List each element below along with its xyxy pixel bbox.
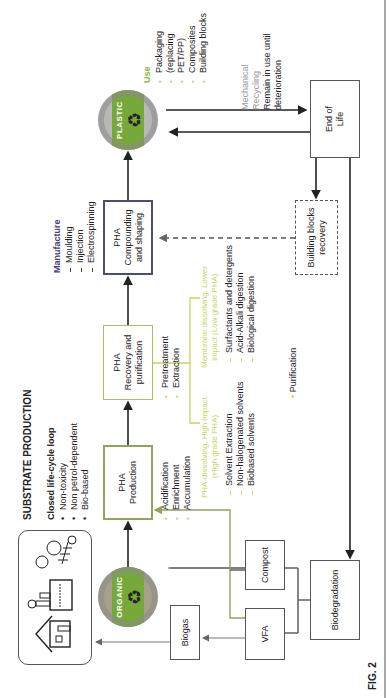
recovery-step: Pretreatment (160, 336, 171, 398)
pha-production-line1: PHA (117, 461, 128, 504)
route-line4: deterioration (273, 33, 284, 110)
production-step: Enrichment (171, 456, 182, 520)
compost-box: Compost (245, 540, 285, 590)
end-of-life-box: End of Life (310, 80, 360, 158)
biogas-label: Biogas (180, 619, 191, 647)
purification-text: Purification (288, 348, 298, 393)
organic-circle: ORGANIC ♻ (98, 567, 158, 627)
recycle-icon: ♻ (124, 589, 146, 605)
use-list: Packaging (replacing PET/PP) Composites … (154, 13, 209, 83)
end-of-life-route: Mechanical Recycling Remain in use until… (240, 33, 284, 110)
biodegradation-box: Biodegradation (310, 560, 360, 640)
recovery-step: Extraction (171, 336, 182, 398)
factory-icon (28, 581, 72, 611)
use-item-continuation: (replacing (165, 13, 176, 83)
low-grade-heading-line2: impact (Low grade PHA) (210, 266, 220, 368)
pha-production-line2: Production (128, 461, 139, 504)
use-item: Composites (187, 13, 198, 83)
high-grade-heading-line1: PHA-dissolving. High impact. (200, 395, 210, 498)
low-grade-heading-line1: Membrane dissolving. Lower (200, 266, 210, 368)
low-grade-item: Acid-Alkali digestion (235, 245, 246, 363)
pha-recovery-line2: Recovery and (123, 335, 134, 391)
closed-loop-item: Non petrol-dependent (69, 423, 80, 520)
vfa-box: VFA (245, 608, 285, 660)
organic-label: ORGANIC (115, 567, 124, 627)
recovery-steps: Pretreatment Extraction (160, 336, 182, 398)
low-grade-list: Surfactants and detergents Acid-Alkali d… (224, 245, 257, 363)
production-step: Acidification (160, 456, 171, 520)
high-grade-heading: PHA-dissolving. High impact. (High grade… (200, 395, 220, 498)
use-heading: Use (142, 66, 153, 83)
high-grade-item: Biobased solvents (246, 381, 257, 496)
pha-recovery-line3: purification (134, 335, 145, 391)
low-grade-item: Surfactants and detergents (224, 245, 235, 363)
icons-panel (18, 530, 92, 665)
high-grade-heading-line2: (High grade PHA) (210, 395, 220, 498)
manufacture-item: Moulding (64, 201, 75, 273)
closed-loop-list: Non-toxicity Non petrol-dependent Bio-ba… (58, 423, 91, 520)
biodegradation-label: Biodegradation (330, 570, 341, 631)
end-of-life-line2: Life (335, 106, 346, 132)
purification-label: • Purification (288, 348, 299, 398)
manufacture-list: Moulding Injection Electrospinning (64, 201, 97, 273)
high-grade-item: Non-halogenated solvents (235, 381, 246, 496)
building-blocks-line1: Building blocks (306, 207, 317, 267)
closed-loop-item: Bio-based (80, 423, 91, 520)
house-icon (36, 617, 70, 653)
pha-compounding-line2: Compounding (123, 209, 134, 265)
figure-label: FIG. 2 (367, 662, 378, 690)
closed-loop-heading: Closed life-cycle loop (46, 427, 57, 520)
food-waste-icon (36, 537, 76, 569)
use-item: Packaging (154, 13, 165, 83)
route-line2: Recycling (251, 33, 262, 110)
high-grade-list: Solvent Extraction Non-halogenated solve… (224, 381, 257, 496)
vfa-label: VFA (260, 626, 271, 643)
route-line1: Mechanical (240, 33, 251, 110)
route-line3: Remain in use until (262, 33, 273, 110)
manufacture-heading: Manufacture (52, 219, 63, 273)
low-grade-heading: Membrane dissolving. Lower impact (Low g… (200, 266, 220, 368)
production-step: Accumulation (182, 456, 193, 520)
pha-compounding-line1: PHA (112, 209, 123, 265)
pha-recovery-line1: PHA (112, 335, 123, 391)
plastic-label: PLASTIC (115, 90, 124, 150)
pha-compounding-line3: and shaping (134, 209, 145, 265)
manufacture-item: Injection (75, 201, 86, 273)
use-item: Building blocks (198, 13, 209, 83)
pha-recovery-box: PHA Recovery and purification (103, 325, 153, 400)
plastic-circle: PLASTIC ♻ (98, 90, 158, 150)
high-grade-item: Solvent Extraction (224, 381, 235, 496)
biogas-box: Biogas (170, 605, 200, 660)
use-item-continuation: PET/PP) (176, 13, 187, 83)
house-factory-food-icons (20, 533, 90, 663)
production-steps: Acidification Enrichment Accumulation (160, 456, 193, 520)
compost-label: Compost (260, 547, 271, 583)
recycle-icon: ♻ (124, 112, 146, 128)
end-of-life-line1: End of (324, 106, 335, 132)
closed-loop-item: Non-toxicity (58, 423, 69, 520)
building-blocks-box: Building blocks recovery (295, 200, 338, 275)
pha-compounding-box: PHA Compounding and shaping (103, 200, 153, 275)
building-blocks-line2: recovery (317, 207, 328, 267)
low-grade-item: Biological digestion (246, 245, 257, 363)
pha-production-box: PHA Production (103, 445, 153, 520)
figure-title: SUBSTRATE PRODUCTION (22, 390, 33, 520)
diagram-canvas: SUBSTRATE PRODUCTION Closed life-cycle l… (0, 0, 390, 698)
manufacture-item: Electrospinning (86, 201, 97, 273)
